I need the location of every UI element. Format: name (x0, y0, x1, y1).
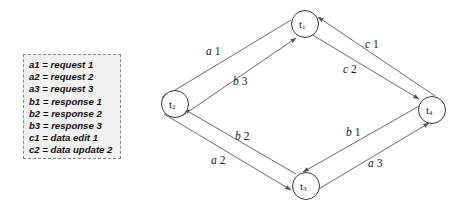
edge-label-b2: b 2 (235, 130, 250, 142)
node-t1: t1 (292, 11, 319, 38)
node-t3: t3 (293, 173, 320, 200)
node-t2: t2 (162, 91, 189, 118)
edge-label-c1: c 1 (365, 38, 379, 50)
edge-label-a1: a 1 (206, 45, 221, 57)
edge-a1 (162, 20, 291, 98)
edge-a2 (164, 114, 291, 190)
edge-label-b3: b 3 (233, 75, 248, 87)
edge-label-a2: a 2 (211, 154, 226, 166)
edge-c1 (318, 17, 435, 96)
node-t4: t4 (419, 97, 446, 124)
edge-label-b1: b 1 (346, 126, 361, 138)
state-diagram: a 1 b 3 c 1 c 2 b 2 a 2 b 1 a 3 t1 t2 t3… (0, 0, 468, 208)
edge-label-a3: a 3 (368, 157, 383, 169)
edge-label-c2: c 2 (343, 63, 357, 75)
